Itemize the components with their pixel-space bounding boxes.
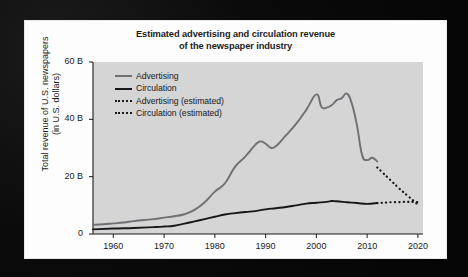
y-axis-label: Total revenue of U.S. newspapers (in U.S… [40, 24, 62, 184]
legend-item-label: Advertising [136, 70, 179, 82]
legend-swatch-icon [115, 71, 132, 81]
legend-item-label: Circulation (estimated) [136, 107, 222, 119]
legend-swatch-icon [115, 108, 132, 118]
y-tick-label: 60 B [64, 56, 83, 66]
legend-item[interactable]: Circulation [115, 82, 224, 94]
y-tick-label: 40 B [64, 113, 83, 123]
legend-item[interactable]: Advertising (estimated) [115, 95, 224, 107]
legend-item-label: Advertising (estimated) [136, 95, 224, 107]
legend-swatch-icon [115, 84, 132, 94]
y-tick-label: 0 [78, 228, 83, 238]
legend-swatch-icon [115, 96, 132, 106]
series-line [377, 167, 418, 204]
y-axis-label-line-1: Total revenue of U.S. newspapers [40, 24, 51, 184]
legend-item[interactable]: Circulation (estimated) [115, 107, 224, 119]
series-line [377, 202, 418, 203]
chart-title: Estimated advertising and circulation re… [25, 29, 446, 52]
chart-card: Estimated advertising and circulation re… [25, 21, 446, 258]
plot-area: 020 B40 B60 B 19601970198019902000201020… [93, 62, 423, 252]
screenshot-root: Estimated advertising and circulation re… [0, 0, 468, 277]
y-axis-label-line-2: (in U.S. dollars) [51, 24, 62, 184]
chart-title-line-2: of the newspaper industry [25, 41, 446, 53]
chart-title-line-1: Estimated advertising and circulation re… [25, 29, 446, 41]
legend-item-label: Circulation [136, 82, 177, 94]
y-tick-label: 20 B [64, 171, 83, 181]
chart-legend: AdvertisingCirculationAdvertising (estim… [115, 70, 224, 120]
series-line [93, 201, 377, 229]
legend-item[interactable]: Advertising [115, 70, 224, 82]
